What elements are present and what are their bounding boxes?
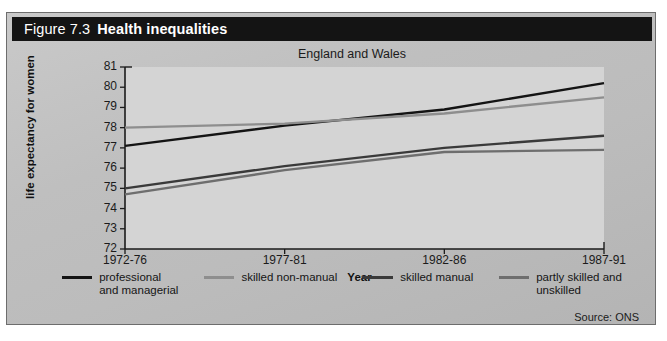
y-tick-label: 75 — [91, 181, 117, 193]
legend-label: professionaland managerial — [99, 271, 178, 297]
x-tick-label: 1977-81 — [240, 253, 330, 267]
y-tick-label: 74 — [91, 202, 117, 214]
legend-color-swatch — [363, 276, 393, 279]
y-tick-label: 81 — [91, 60, 117, 72]
legend-label: skilled non-manual — [241, 271, 337, 284]
chart-legend: professionaland managerialskilled non-ma… — [7, 271, 657, 311]
chart-area: England and Wales life expectancy for wo… — [7, 43, 657, 258]
y-tick-label: 73 — [91, 222, 117, 234]
source-note: Source: ONS — [574, 311, 639, 323]
figure-number: Figure 7.3 — [24, 21, 90, 37]
y-tick-label: 76 — [91, 161, 117, 173]
legend-item: professionaland managerial — [62, 271, 178, 297]
legend-color-swatch — [499, 276, 529, 279]
legend-item: skilled non-manual — [204, 271, 337, 284]
legend-item: skilled manual — [363, 271, 473, 284]
y-tick-label: 80 — [91, 80, 117, 92]
figure-title: Health inequalities — [97, 21, 227, 37]
legend-color-swatch — [62, 276, 92, 279]
y-tick-label: 77 — [91, 141, 117, 153]
figure-title-bar: Figure 7.3 Health inequalities — [12, 17, 652, 41]
x-tick-label: 1972-76 — [80, 253, 170, 267]
y-tick-label: 78 — [91, 121, 117, 133]
figure-panel: Figure 7.3 Health inequalities England a… — [6, 12, 656, 325]
legend-color-swatch — [204, 276, 234, 279]
y-tick-label: 79 — [91, 100, 117, 112]
legend-label: skilled manual — [400, 271, 473, 284]
legend-label: partly skilled andunskilled — [536, 271, 622, 297]
x-tick-label: 1987-91 — [559, 253, 649, 267]
legend-item: partly skilled andunskilled — [499, 271, 622, 297]
x-tick-label: 1982-86 — [399, 253, 489, 267]
